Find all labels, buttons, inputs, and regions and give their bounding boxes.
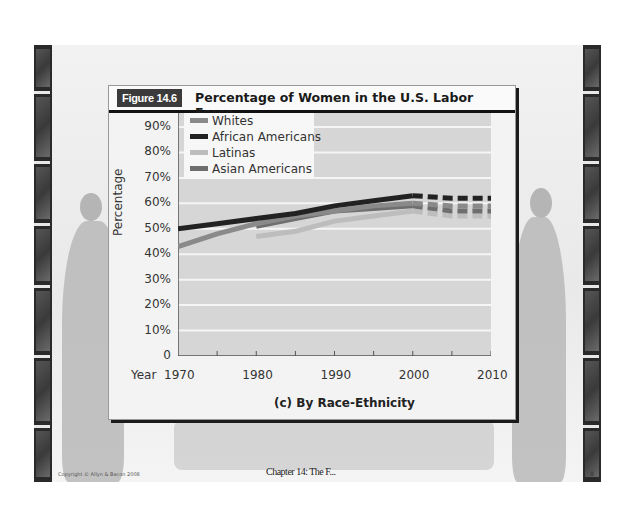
y-tick-label: 40% (131, 246, 171, 260)
figure-title-bar: Figure 14.6 Percentage of Women in the U… (109, 86, 515, 113)
y-tick-label: 0 (131, 348, 171, 362)
y-tick-label: 60% (131, 195, 171, 209)
legend-swatch (190, 166, 208, 171)
x-tick-label: 2010 (477, 368, 508, 382)
legend-swatch (190, 150, 208, 155)
x-axis-title: Year (131, 368, 156, 382)
figure-panel: Figure 14.6 Percentage of Women in the U… (108, 85, 516, 420)
film-strip-left (34, 45, 52, 482)
film-strip-right (583, 45, 601, 482)
x-tick-label: 2000 (399, 368, 430, 382)
copyright-footer: Copyright © Allyn & Bacon 2008 (58, 471, 140, 477)
legend-swatch (190, 134, 208, 139)
chapter-footer: Chapter 14: The F... (266, 466, 336, 477)
legend-label: Asian Americans (212, 162, 312, 176)
y-tick-label: 10% (131, 323, 171, 337)
x-tick-label: 1990 (321, 368, 352, 382)
y-tick-label: 30% (131, 272, 171, 286)
x-tick-label: 1980 (242, 368, 273, 382)
silhouette-left-head (80, 193, 102, 221)
y-tick-label: 50% (131, 221, 171, 235)
y-tick-label: 70% (131, 170, 171, 184)
legend-label: Whites (212, 114, 253, 128)
figure-number-badge: Figure 14.6 (117, 89, 182, 107)
x-tick-label: 1970 (164, 368, 195, 382)
y-axis-title: Percentage (111, 168, 125, 236)
chart-subtitle: (c) By Race-Ethnicity (274, 396, 415, 410)
slide-number: 8 (590, 470, 594, 477)
line-chart-plot: WhitesAfrican AmericansLatinasAsian Amer… (178, 113, 491, 356)
y-tick-label: 20% (131, 297, 171, 311)
silhouette-right (512, 217, 566, 482)
y-tick-label: 90% (131, 119, 171, 133)
legend-swatch (190, 118, 208, 123)
legend-label: Latinas (212, 146, 255, 160)
silhouette-right-head (530, 188, 552, 218)
silhouette-legs (174, 420, 494, 470)
legend-label: African Americans (212, 130, 321, 144)
y-tick-label: 80% (131, 144, 171, 158)
